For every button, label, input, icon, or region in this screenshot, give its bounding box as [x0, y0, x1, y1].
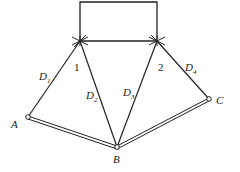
rigid-frame	[80, 2, 157, 41]
truss-diagram: 1 2 A B C D1 D2 D3 D4	[0, 0, 240, 172]
label-c: C	[216, 94, 224, 106]
members	[28, 41, 209, 147]
label-d1: D1	[38, 70, 50, 85]
member-d1	[28, 41, 80, 117]
label-node-1: 1	[74, 61, 80, 73]
hinge-b-icon	[115, 145, 120, 150]
label-b: B	[113, 153, 120, 165]
member-d4	[157, 41, 209, 99]
bar-bc	[117, 98, 209, 149]
label-node-2: 2	[158, 61, 164, 73]
label-d3: D3	[122, 86, 135, 101]
label-d2: D2	[85, 89, 98, 104]
hinge-c-icon	[207, 97, 212, 102]
label-a: A	[10, 118, 18, 130]
bar-ab	[28, 116, 117, 149]
hinge-a-icon	[26, 115, 31, 120]
